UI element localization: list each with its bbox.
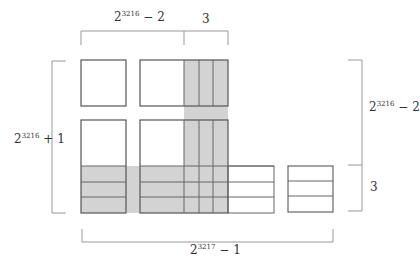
label-bottom: 23217 − 1: [190, 243, 241, 257]
label-text: 3: [370, 180, 378, 194]
label-base: 2: [190, 243, 198, 257]
bracket-right: [348, 60, 362, 211]
shaded-regions: [81, 60, 228, 213]
bracket-bottom: [82, 229, 333, 242]
label-base: 2: [114, 10, 122, 24]
label-base: 2: [369, 100, 377, 114]
block-extension-2: [288, 166, 333, 212]
label-top-left: 23216 − 2: [114, 10, 165, 24]
label-rest: − 1: [215, 243, 240, 257]
label-text: 3: [202, 12, 210, 26]
label-base: 2: [14, 132, 22, 146]
label-exp: 3216: [122, 10, 140, 18]
label-left: 23216 + 1: [14, 132, 65, 146]
label-rest: − 2: [139, 10, 164, 24]
label-right-bottom: 3: [370, 180, 378, 194]
bracket-top: [81, 31, 228, 45]
label-right-top: 23216 − 2: [369, 100, 420, 114]
label-top-right: 3: [202, 12, 210, 26]
label-rest: − 2: [394, 100, 419, 114]
block-extension-1: [228, 166, 274, 213]
block-top-left: [81, 60, 126, 106]
label-exp: 3216: [377, 100, 395, 108]
label-exp: 3216: [22, 132, 40, 140]
label-exp: 3217: [198, 243, 216, 251]
label-rest: + 1: [39, 132, 64, 146]
